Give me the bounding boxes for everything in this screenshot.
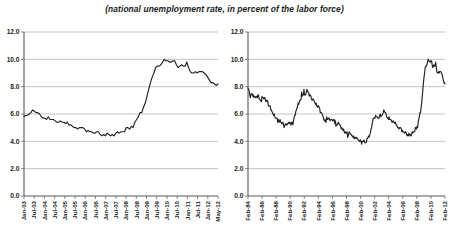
- y-tick-label: 12.0: [7, 28, 20, 35]
- x-tick-label: Jul-06: [92, 200, 99, 218]
- x-tick-label: Jul-05: [71, 200, 78, 218]
- x-tick-label: Feb-04: [385, 200, 392, 220]
- plot-area-right: 0.02.04.06.08.010.012.0Feb-84Feb-86Feb-8…: [222, 28, 449, 238]
- y-tick-label: 6.0: [10, 110, 19, 117]
- x-tick-label: Jul-07: [112, 200, 119, 218]
- x-tick-label: Feb-86: [258, 200, 265, 220]
- y-tick-label: 0.0: [234, 192, 243, 199]
- y-tick-label: 10.0: [231, 56, 244, 63]
- y-tick-label: 0.0: [10, 192, 19, 199]
- x-tick-label: Jul-03: [30, 200, 37, 218]
- x-tick-label: Feb-94: [315, 200, 322, 220]
- x-tick-label: Feb-98: [343, 200, 350, 220]
- x-tick-label: Jul-10: [173, 200, 180, 218]
- y-tick-label: 10.0: [7, 56, 20, 63]
- x-tick-label: Feb-00: [357, 200, 364, 220]
- y-tick-label: 8.0: [234, 83, 243, 90]
- y-tick-label: 6.0: [234, 110, 243, 117]
- x-tick-label: Feb-12: [441, 200, 448, 220]
- x-tick-label: Jan-10: [163, 200, 170, 220]
- x-tick-label: Feb-10: [427, 200, 434, 220]
- chart-panel-right: 0.02.04.06.08.010.012.0Feb-84Feb-86Feb-8…: [222, 28, 449, 238]
- chart-page: (national unemployment rate, in percent …: [0, 0, 449, 238]
- x-tick-label: Jan-12: [204, 200, 211, 220]
- x-tick-label: Jan-06: [81, 200, 88, 220]
- y-tick-label: 12.0: [231, 28, 244, 35]
- plot-area-left: 0.02.04.06.08.010.012.0Jan-03Jul-03Jan-0…: [0, 28, 222, 238]
- x-tick-label: Jan-03: [20, 200, 27, 220]
- x-tick-label: Jan-05: [61, 200, 68, 220]
- y-tick-label: 4.0: [234, 138, 243, 145]
- x-tick-label: Feb-08: [413, 200, 420, 220]
- y-tick-label: 2.0: [10, 165, 19, 172]
- x-tick-label: Jul-04: [51, 200, 58, 218]
- x-tick-label: Jan-08: [122, 200, 129, 220]
- figure-title: (national unemployment rate, in percent …: [0, 4, 449, 14]
- x-tick-label: Jan-09: [143, 200, 150, 220]
- line-chart-right: 0.02.04.06.08.010.012.0Feb-84Feb-86Feb-8…: [222, 28, 449, 238]
- x-tick-label: Feb-96: [329, 200, 336, 220]
- x-tick-label: Jan-11: [184, 200, 191, 220]
- x-tick-label: May-12: [214, 200, 221, 221]
- x-tick-label: Feb-88: [272, 200, 279, 220]
- x-tick-label: Feb-06: [399, 200, 406, 220]
- x-tick-label: Jul-11: [194, 200, 201, 218]
- x-tick-label: Feb-02: [371, 200, 378, 220]
- y-tick-label: 2.0: [234, 165, 243, 172]
- x-tick-label: Feb-84: [244, 200, 251, 220]
- x-tick-label: Jul-08: [133, 200, 140, 218]
- y-tick-label: 8.0: [10, 83, 19, 90]
- y-tick-label: 4.0: [10, 138, 19, 145]
- chart-panel-left: 0.02.04.06.08.010.012.0Jan-03Jul-03Jan-0…: [0, 28, 222, 238]
- x-tick-label: Jan-04: [41, 200, 48, 220]
- x-tick-label: Feb-92: [300, 200, 307, 220]
- x-tick-label: Feb-90: [286, 200, 293, 220]
- x-tick-label: Jul-09: [153, 200, 160, 218]
- line-chart-left: 0.02.04.06.08.010.012.0Jan-03Jul-03Jan-0…: [0, 28, 222, 238]
- x-tick-label: Jan-07: [102, 200, 109, 220]
- series-line: [24, 59, 218, 136]
- series-line: [248, 59, 445, 144]
